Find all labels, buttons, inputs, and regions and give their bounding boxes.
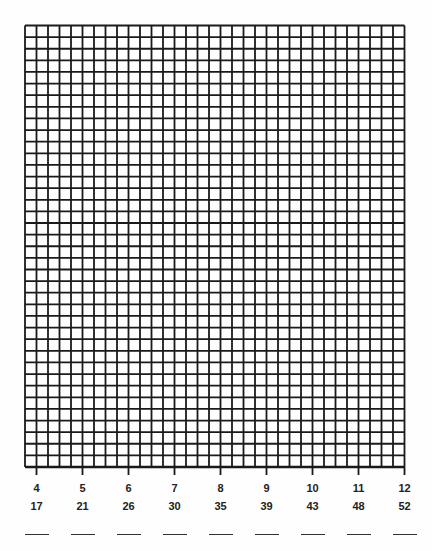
answer-blank-line[interactable] <box>25 534 49 535</box>
answer-blank-line[interactable] <box>301 534 325 535</box>
graph-paper-grid <box>0 0 432 551</box>
tick-label-top: 4 <box>22 482 52 494</box>
answer-blank-line[interactable] <box>393 534 417 535</box>
answer-blank-line[interactable] <box>209 534 233 535</box>
tick-label-top: 9 <box>252 482 282 494</box>
tick-label-bottom: 35 <box>206 500 236 512</box>
answer-blank-line[interactable] <box>71 534 95 535</box>
tick-label-top: 11 <box>344 482 374 494</box>
tick-label-bottom: 43 <box>298 500 328 512</box>
tick-label-top: 7 <box>160 482 190 494</box>
answer-blank-line[interactable] <box>117 534 141 535</box>
answer-blank-line[interactable] <box>163 534 187 535</box>
tick-label-bottom: 21 <box>68 500 98 512</box>
tick-label-bottom: 48 <box>344 500 374 512</box>
answer-blank-line[interactable] <box>347 534 371 535</box>
tick-label-top: 8 <box>206 482 236 494</box>
tick-label-bottom: 39 <box>252 500 282 512</box>
tick-label-top: 6 <box>114 482 144 494</box>
answer-blank-line[interactable] <box>255 534 279 535</box>
tick-label-bottom: 17 <box>22 500 52 512</box>
tick-label-bottom: 52 <box>390 500 420 512</box>
tick-label-top: 5 <box>68 482 98 494</box>
tick-label-top: 12 <box>390 482 420 494</box>
tick-label-top: 10 <box>298 482 328 494</box>
tick-label-bottom: 30 <box>160 500 190 512</box>
tick-label-bottom: 26 <box>114 500 144 512</box>
